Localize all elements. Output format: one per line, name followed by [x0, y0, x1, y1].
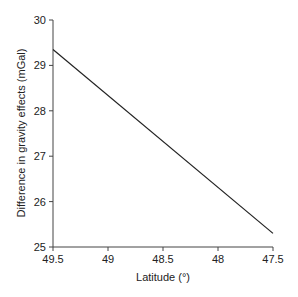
x-tick-label: 49: [102, 253, 114, 265]
x-axis-label: Latitude (°): [136, 271, 190, 283]
x-tick-label: 48.5: [152, 253, 173, 265]
x-tick-label: 48: [212, 253, 224, 265]
x-tick-label: 47.5: [262, 253, 283, 265]
x-tick-label: 49.5: [42, 253, 63, 265]
x-axis: 49.54948.54847.5 Latitude (°): [42, 247, 283, 283]
chart: 252627282930 Difference in gravity effec…: [0, 0, 298, 297]
y-tick-label: 29: [34, 59, 46, 71]
data-line: [53, 50, 273, 234]
y-tick-label: 25: [34, 241, 46, 253]
y-axis: 252627282930 Difference in gravity effec…: [15, 14, 53, 253]
y-tick-label: 28: [34, 105, 46, 117]
y-tick-label: 30: [34, 14, 46, 26]
y-tick-label: 27: [34, 150, 46, 162]
y-axis-label: Difference in gravity effects (mGal): [15, 49, 27, 218]
y-tick-label: 26: [34, 196, 46, 208]
